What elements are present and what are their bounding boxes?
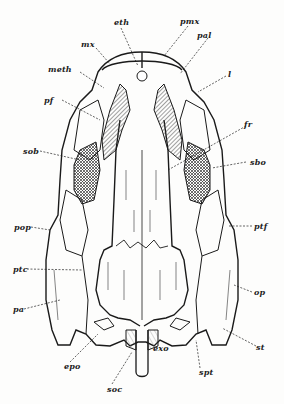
skull-drawing <box>0 0 284 404</box>
label-sbo: sbo <box>250 158 266 166</box>
ethmoid-knob <box>137 71 147 81</box>
label-l: l <box>228 70 231 78</box>
label-pal: pal <box>197 31 211 39</box>
label-pf: pf <box>44 96 53 104</box>
label-st: st <box>256 343 265 351</box>
label-spt: spt <box>199 368 213 376</box>
label-pa: pa <box>13 305 24 313</box>
label-ptc: ptc <box>13 265 28 273</box>
skull-figure: eth pmx mx pal meth l pf fr sob sbo pop … <box>0 0 284 404</box>
label-op: op <box>254 288 265 296</box>
label-exo: exo <box>153 344 169 352</box>
label-epo: epo <box>64 362 81 370</box>
label-ptf: ptf <box>254 222 267 230</box>
label-sob: sob <box>23 147 39 155</box>
label-meth: meth <box>48 65 72 73</box>
label-pmx: pmx <box>180 17 199 25</box>
label-soc: soc <box>107 385 122 393</box>
label-mx: mx <box>81 40 95 48</box>
skull-outline <box>46 52 238 377</box>
label-fr: fr <box>244 120 252 128</box>
label-pop: pop <box>14 223 31 231</box>
label-eth: eth <box>114 18 129 26</box>
